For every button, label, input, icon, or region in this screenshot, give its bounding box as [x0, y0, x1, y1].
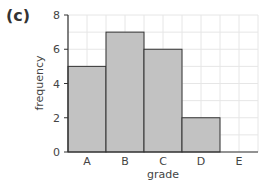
histogram-chart: 02468 ABCDE grade frequency	[0, 0, 262, 184]
x-axis-label: grade	[147, 168, 179, 181]
bars	[68, 32, 220, 152]
y-tick-label: 6	[53, 43, 60, 56]
x-tick-label: B	[121, 155, 129, 168]
y-tick-label: 2	[53, 112, 60, 125]
y-tick-labels: 02468	[53, 9, 68, 159]
x-tick-label: A	[83, 155, 91, 168]
y-axis-label: frequency	[33, 55, 46, 111]
x-tick-labels: ABCDE	[83, 155, 242, 168]
bar-C	[144, 49, 182, 152]
y-tick-label: 4	[53, 78, 60, 91]
x-tick-label: E	[236, 155, 243, 168]
bar-A	[68, 66, 106, 152]
x-tick-label: C	[159, 155, 167, 168]
x-tick-label: D	[197, 155, 205, 168]
bar-D	[182, 118, 220, 152]
y-tick-label: 8	[53, 9, 60, 22]
y-tick-label: 0	[53, 146, 60, 159]
bar-B	[106, 32, 144, 152]
